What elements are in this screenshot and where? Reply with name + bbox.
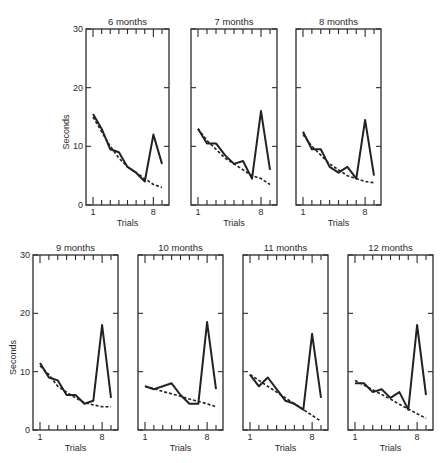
x-tick-label: 8 [415, 432, 420, 442]
fitted-curve [198, 129, 270, 185]
x-tick-label: 1 [90, 207, 95, 217]
x-tick-label: 8 [205, 432, 210, 442]
fitted-curve [250, 375, 321, 422]
y-tick-label: 10 [73, 141, 83, 151]
panel-title: 12 months [368, 242, 413, 253]
panel-6-months: 6 months18Trials0102030Seconds [61, 16, 169, 228]
x-tick-label: 8 [310, 432, 315, 442]
x-axis-label: Trials [223, 218, 245, 228]
x-axis-label: Trials [328, 218, 350, 228]
fitted-curve [303, 135, 374, 183]
y-axis-label: Seconds [61, 114, 71, 150]
x-tick-label: 8 [258, 207, 263, 217]
observed-line [355, 325, 426, 410]
panel-title: 6 months [108, 16, 147, 27]
observed-line [145, 322, 216, 404]
chart-svg: 6 months18Trials0102030Seconds7 months18… [0, 0, 448, 463]
y-tick-label: 30 [20, 250, 30, 260]
panel-title: 8 months [319, 16, 358, 27]
y-tick-label: 20 [73, 83, 83, 93]
x-axis-label: Trials [275, 443, 297, 453]
panel-title: 9 months [56, 242, 95, 253]
x-tick-label: 1 [195, 207, 200, 217]
observed-line [93, 114, 162, 181]
y-tick-label: 0 [78, 200, 83, 210]
fitted-curve [355, 380, 426, 418]
observed-line [40, 325, 111, 404]
x-tick-label: 1 [142, 432, 147, 442]
y-axis-label: Seconds [8, 339, 18, 375]
panel-12-months: 12 months18Trials [348, 242, 433, 453]
plot-frame [296, 29, 381, 205]
plot-frame [191, 29, 277, 205]
y-tick-label: 10 [20, 367, 30, 377]
panel-7-months: 7 months18Trials [191, 16, 277, 228]
x-tick-label: 1 [247, 432, 252, 442]
x-tick-label: 1 [352, 432, 357, 442]
fitted-curve [40, 366, 111, 407]
panel-title: 7 months [214, 16, 253, 27]
y-tick-label: 20 [20, 308, 30, 318]
chart-figure: 6 months18Trials0102030Seconds7 months18… [0, 0, 448, 463]
x-tick-label: 1 [300, 207, 305, 217]
x-axis-label: Trials [380, 443, 402, 453]
panel-8-months: 8 months18Trials [296, 16, 381, 228]
panel-title: 11 months [264, 242, 308, 253]
panel-title: 10 months [158, 242, 203, 253]
observed-line [198, 111, 270, 179]
x-tick-label: 8 [363, 207, 368, 217]
y-tick-label: 30 [73, 24, 83, 34]
x-axis-label: Trials [117, 218, 139, 228]
panel-10-months: 10 months18Trials [138, 242, 223, 453]
plot-frame [33, 255, 118, 430]
fitted-curve [93, 117, 162, 187]
plot-frame [243, 255, 328, 430]
panel-11-months: 11 months18Trials [243, 242, 328, 453]
y-tick-label: 0 [25, 425, 30, 435]
x-tick-label: 8 [100, 432, 105, 442]
x-axis-label: Trials [170, 443, 192, 453]
x-axis-label: Trials [65, 443, 87, 453]
fitted-curve [145, 386, 216, 406]
plot-frame [86, 29, 169, 205]
x-tick-label: 8 [151, 207, 156, 217]
x-tick-label: 1 [37, 432, 42, 442]
panel-9-months: 9 months18Trials0102030Seconds [8, 242, 118, 453]
